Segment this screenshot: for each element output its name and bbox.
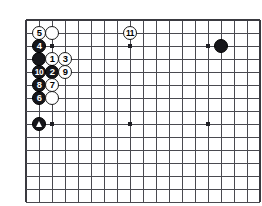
star-point — [50, 44, 53, 47]
move-number-label: 9 — [63, 67, 68, 76]
move-number-label: 5 — [37, 28, 42, 37]
move-number-label: 8 — [37, 80, 42, 89]
move-number-label: 7 — [50, 80, 55, 89]
move-number-label: 6 — [37, 93, 42, 102]
star-point — [50, 122, 53, 125]
star-point — [206, 122, 209, 125]
go-diagram: 5413102987611 — [0, 0, 262, 206]
star-point — [128, 44, 131, 47]
move-number-label: 3 — [63, 54, 68, 63]
move-number-label: 10 — [35, 68, 43, 76]
triangle-marker-icon — [36, 121, 42, 127]
star-point — [128, 122, 131, 125]
move-number-label: 2 — [50, 67, 55, 76]
move-number-label: 4 — [37, 41, 42, 50]
move-number-label: 1 — [50, 54, 55, 63]
star-point — [206, 44, 209, 47]
move-number-label: 11 — [126, 29, 134, 37]
